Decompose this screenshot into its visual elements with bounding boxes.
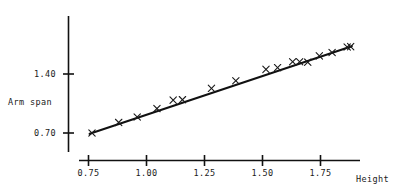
y-tick-label-0-70: 0.70 bbox=[14, 128, 56, 138]
x-tick-label-1-50: 1.50 bbox=[240, 168, 285, 178]
y-tick-label-1-40: 1.40 bbox=[14, 69, 56, 79]
data-point-marker bbox=[170, 97, 176, 103]
x-tick-label-0-75: 0.75 bbox=[66, 168, 111, 178]
x-tick-label-1-25: 1.25 bbox=[182, 168, 227, 178]
data-point-marker bbox=[263, 66, 269, 72]
regression-line bbox=[90, 46, 352, 134]
y-axis-title: Arm span bbox=[8, 97, 52, 107]
x-tick-label-1-00: 1.00 bbox=[124, 168, 169, 178]
data-point-marker bbox=[208, 85, 214, 91]
x-tick-label-1-75: 1.75 bbox=[298, 168, 343, 178]
data-point-marker bbox=[233, 78, 239, 84]
x-axis-title: Height bbox=[356, 174, 389, 184]
data-point-marker bbox=[289, 59, 295, 65]
plot-area bbox=[0, 0, 406, 192]
scatter-chart: 1.40 0.70 0.75 1.00 1.25 1.50 1.75 Arm s… bbox=[0, 0, 406, 192]
